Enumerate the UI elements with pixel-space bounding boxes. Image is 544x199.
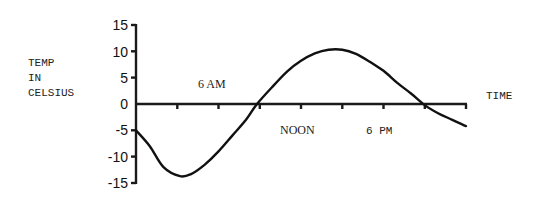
- y-axis: [131, 24, 136, 184]
- y-axis-title-line-2: IN: [28, 72, 41, 84]
- y-tick-0: 0: [120, 96, 128, 112]
- y-tick-neg5: -5: [116, 122, 129, 138]
- x-axis: [136, 104, 467, 109]
- y-tick-neg15: -15: [108, 175, 128, 191]
- y-axis-title-line-1: TEMP: [28, 57, 55, 69]
- y-tick-labels: 15 10 5 0 -5 -10 -15: [108, 17, 128, 191]
- temperature-curve: [136, 49, 466, 176]
- y-axis-title-line-3: CELSIUS: [28, 87, 75, 99]
- x-axis-title: TIME: [486, 90, 513, 102]
- temperature-chart: TEMP IN CELSIUS 15 10 5 0 -5 -10 -15 6 A…: [0, 0, 544, 199]
- x-label-6am: 6 AM: [198, 77, 226, 91]
- x-label-6pm: 6 PM: [366, 125, 392, 137]
- y-tick-10: 10: [112, 44, 128, 60]
- y-tick-5: 5: [120, 70, 128, 86]
- x-label-noon: NOON: [280, 123, 315, 137]
- y-tick-15: 15: [112, 17, 128, 33]
- y-tick-neg10: -10: [108, 149, 128, 165]
